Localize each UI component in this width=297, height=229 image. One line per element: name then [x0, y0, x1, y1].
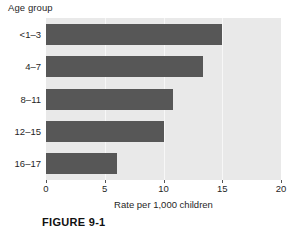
- x-axis-tick-label: 0: [43, 183, 48, 194]
- bar: [46, 89, 173, 110]
- x-axis-tick-label: 5: [102, 183, 107, 194]
- x-axis-tick-labels: 05101520: [46, 183, 281, 197]
- plot-area: [46, 18, 281, 180]
- figure-container: Age group <1–34–78–1112–1516–17 05101520…: [0, 0, 297, 229]
- bar-row: [46, 56, 281, 77]
- bars-layer: [46, 18, 281, 180]
- bar: [46, 56, 203, 77]
- bar-row: [46, 153, 281, 174]
- bar-row: [46, 24, 281, 45]
- bar-row: [46, 121, 281, 142]
- y-axis-tick-label: 16–17: [15, 153, 41, 174]
- y-axis-tick-label: 4–7: [25, 56, 41, 77]
- y-axis-tick-label: <1–3: [20, 24, 41, 45]
- bar-row: [46, 89, 281, 110]
- bar: [46, 24, 222, 45]
- bar: [46, 153, 117, 174]
- figure-caption: FIGURE 9-1: [42, 216, 106, 229]
- y-axis-tick-label: 12–15: [15, 121, 41, 142]
- x-axis-tick-label: 15: [217, 183, 228, 194]
- y-axis-tick-label: 8–11: [21, 89, 41, 110]
- bar: [46, 121, 164, 142]
- x-axis-tick-label: 10: [158, 183, 169, 194]
- y-axis-labels: <1–34–78–1112–1516–17: [0, 18, 41, 180]
- x-axis-title: Rate per 1,000 children: [46, 199, 281, 210]
- x-axis-tick-label: 20: [276, 183, 287, 194]
- chart-title: Age group: [8, 2, 53, 13]
